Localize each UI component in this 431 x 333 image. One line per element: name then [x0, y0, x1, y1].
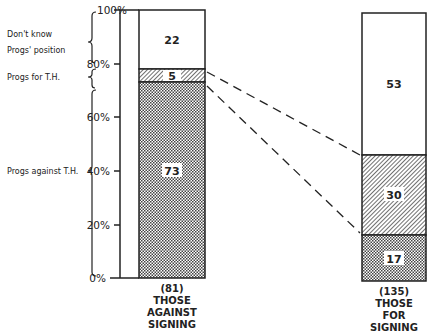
label-dont-know-line2: Progs' position — [7, 46, 65, 55]
label-progs-against: Progs against T.H. — [7, 167, 78, 176]
segment-progs-against — [139, 82, 205, 278]
svg-text:FOR: FOR — [382, 310, 405, 321]
svg-text:(135): (135) — [379, 286, 409, 297]
value-progs-against: 17 — [386, 253, 401, 266]
caption-against-signing: (81) THOSE AGAINST SIGNING — [147, 283, 197, 330]
value-dont-know: 53 — [386, 78, 401, 91]
svg-text:SIGNING: SIGNING — [148, 319, 196, 330]
tick-60: 60% — [87, 111, 110, 123]
bar-for-signing: 53 30 17 — [362, 13, 426, 281]
value-progs-against: 73 — [164, 165, 179, 178]
svg-text:THOSE: THOSE — [375, 298, 413, 309]
y-axis: 100% 80% 60% 40% 20% 0% — [87, 4, 139, 284]
connector-lines — [207, 72, 360, 233]
caption-for-signing: (135) THOSE FOR SIGNING — [370, 286, 418, 333]
value-progs-for: 5 — [168, 70, 176, 83]
stacked-bar-chart: 100% 80% 60% 40% 20% 0% Don't know Progs… — [0, 0, 431, 333]
svg-text:THOSE: THOSE — [153, 295, 191, 306]
braces — [88, 12, 96, 276]
value-progs-for: 30 — [386, 189, 402, 202]
label-progs-for: Progs for T.H. — [7, 73, 60, 82]
bar-against-signing: 22 5 73 — [139, 10, 205, 278]
svg-text:AGAINST: AGAINST — [147, 307, 197, 318]
tick-100: 100% — [97, 4, 127, 16]
brace-dont-know — [88, 12, 96, 63]
tick-20: 20% — [87, 219, 110, 231]
label-dont-know-line1: Don't know — [7, 30, 53, 39]
value-dont-know: 22 — [164, 34, 179, 47]
svg-text:SIGNING: SIGNING — [370, 322, 418, 333]
brace-progs-for — [88, 69, 96, 88]
tick-80: 80% — [87, 58, 110, 70]
svg-text:(81): (81) — [160, 283, 183, 294]
